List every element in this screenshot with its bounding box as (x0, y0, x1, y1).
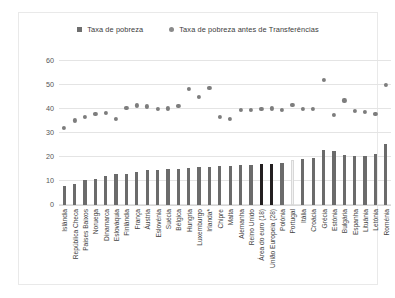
bar (363, 156, 366, 205)
axis-baseline (59, 205, 391, 206)
scatter-point (124, 106, 128, 110)
plot-area: 0102030405060 (59, 61, 391, 205)
chart-column (381, 61, 391, 205)
x-axis-tick-label: Itália (299, 209, 306, 223)
chart-column (360, 61, 370, 205)
chart-column (215, 61, 225, 205)
bar (125, 174, 128, 205)
scatter-point (93, 112, 97, 116)
x-axis-label-slot: Lituânia (360, 207, 370, 295)
chart-column (173, 61, 183, 205)
bar (343, 155, 346, 205)
x-axis-label-slot: Eslovénia (152, 207, 162, 295)
x-axis-tick-label: Espanha (351, 209, 358, 235)
x-axis-labels: IslândiaRepública ChecaPaíses BaixosNoru… (59, 207, 391, 295)
x-axis-tick-label: Letónia (372, 209, 379, 231)
chart-column (370, 61, 380, 205)
y-axis-tick-label: 50 (46, 80, 54, 89)
x-axis-label-slot: República Checa (69, 207, 79, 295)
bar (280, 163, 283, 205)
x-axis-label-slot: Islândia (59, 207, 69, 295)
chart-legend: Taxa de pobreza Taxa de pobreza antes de… (19, 25, 377, 34)
x-axis-tick-label: Estónia (330, 209, 337, 231)
scatter-point (238, 108, 242, 112)
bar (249, 165, 252, 205)
scatter-point (218, 115, 222, 119)
x-axis-tick-label: Grécia (320, 209, 327, 228)
bar (270, 164, 273, 205)
x-axis-tick-label: Roménia (382, 209, 389, 235)
x-axis-label-slot: Grécia (318, 207, 328, 295)
scatter-point (72, 118, 76, 122)
chart-column (318, 61, 328, 205)
scatter-point (187, 87, 191, 91)
chart-column (132, 61, 142, 205)
x-axis-label-slot: Finlândia (121, 207, 131, 295)
scatter-point (384, 83, 388, 87)
x-axis-label-slot: Reino Unido (246, 207, 256, 295)
bar (114, 174, 117, 205)
x-axis-tick-label: Países Baixos (81, 209, 88, 251)
bar (291, 160, 294, 205)
scatter-point (176, 104, 180, 108)
bar-series (59, 61, 391, 205)
bar (239, 165, 242, 205)
x-axis-tick-label: Luxemburgo (196, 209, 203, 246)
bar (322, 150, 325, 205)
bar (312, 158, 315, 205)
x-axis-tick-label: Área do euro (18) (258, 209, 265, 261)
x-axis-label-slot: Portugal (287, 207, 297, 295)
x-axis-label-slot: Áustria (142, 207, 152, 295)
bar (301, 159, 304, 205)
bar (353, 156, 356, 205)
x-axis-label-slot: Eslováquia (111, 207, 121, 295)
legend-label-poverty-rate-before-transfers: Taxa de pobreza antes de Transferências (179, 25, 318, 34)
x-axis-tick-label: Bulgária (341, 209, 348, 233)
chart-column (225, 61, 235, 205)
x-axis-label-slot: Noruega (90, 207, 100, 295)
scatter-point (114, 117, 118, 121)
scatter-point (83, 115, 87, 119)
x-axis-tick-label: Croácia (310, 209, 317, 232)
x-axis-label-slot: Polónia (277, 207, 287, 295)
chart-column (80, 61, 90, 205)
x-axis-label-slot: Suécia (163, 207, 173, 295)
chart-column (204, 61, 214, 205)
x-axis-label-slot: União Europeia (28) (267, 207, 277, 295)
chart-column (298, 61, 308, 205)
x-axis-label-slot: Croácia (308, 207, 318, 295)
bar (218, 166, 221, 205)
bar (187, 168, 190, 205)
chart-column (267, 61, 277, 205)
x-axis-tick-label: Suécia (164, 209, 171, 229)
bar (332, 151, 335, 205)
scatter-point (270, 106, 274, 110)
x-axis-label-slot: Hungria (184, 207, 194, 295)
chart-column (184, 61, 194, 205)
scatter-point (332, 113, 336, 117)
y-axis-tick-label: 40 (46, 104, 54, 113)
scatter-point (207, 86, 211, 90)
x-axis-label-slot: Bélgica (173, 207, 183, 295)
chart-column (121, 61, 131, 205)
scatter-point (62, 126, 66, 130)
scatter-point (228, 117, 232, 121)
scatter-point (280, 108, 284, 112)
bar (229, 166, 232, 205)
x-axis-tick-label: Finlândia (123, 209, 130, 236)
scatter-point (166, 106, 170, 110)
chart-column (69, 61, 79, 205)
bar (94, 179, 97, 205)
chart-column (256, 61, 266, 205)
scatter-point (353, 109, 357, 113)
x-axis-tick-label: Hungria (185, 209, 192, 232)
x-axis-label-slot: Malta (225, 207, 235, 295)
scatter-point (249, 108, 253, 112)
bar (208, 167, 211, 205)
bar (177, 169, 180, 205)
x-axis-label-slot: Bulgária (339, 207, 349, 295)
x-axis-tick-label: Islândia (61, 209, 68, 232)
chart-column (287, 61, 297, 205)
chart-column (194, 61, 204, 205)
x-axis-tick-label: Chipre (216, 209, 223, 228)
